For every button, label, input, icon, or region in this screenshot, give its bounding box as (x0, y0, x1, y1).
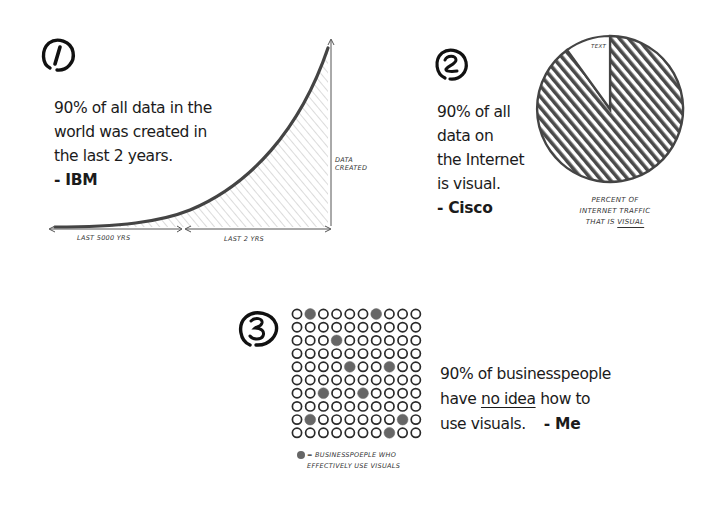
filled-dot (318, 388, 329, 399)
filled-dot (384, 427, 395, 438)
empty-dot (372, 402, 381, 411)
empty-dot (345, 389, 354, 398)
empty-dot (292, 336, 301, 345)
empty-dot (332, 402, 341, 411)
empty-dot (411, 402, 420, 411)
empty-dot (411, 323, 420, 332)
pie-caption-line: INTERNET TRAFFIC (572, 206, 658, 217)
empty-dot (332, 309, 341, 318)
empty-dot (411, 389, 420, 398)
empty-dot (411, 375, 420, 384)
empty-dot (332, 349, 341, 358)
empty-dot (332, 362, 341, 371)
empty-dot (385, 309, 394, 318)
empty-dot (358, 375, 367, 384)
filled-dot (331, 335, 342, 346)
empty-dot (319, 323, 328, 332)
empty-dot (385, 389, 394, 398)
empty-dot (398, 389, 407, 398)
empty-dot (332, 415, 341, 424)
empty-dot (292, 349, 301, 358)
empty-dot (385, 415, 394, 424)
empty-dot (332, 389, 341, 398)
empty-dot (292, 428, 301, 437)
empty-dot (306, 336, 315, 345)
empty-dot (319, 402, 328, 411)
empty-dot (398, 336, 407, 345)
empty-dot (292, 323, 301, 332)
empty-dot (372, 375, 381, 384)
filled-dot (397, 414, 408, 425)
fact-3-line: 90% of businesspeople (440, 362, 611, 387)
empty-dot (358, 309, 367, 318)
empty-dot (306, 362, 315, 371)
businesspeople-dot-grid (291, 308, 431, 448)
empty-dot (292, 362, 301, 371)
empty-dot (332, 375, 341, 384)
empty-dot (306, 389, 315, 398)
fact-3-emphasis: no idea (481, 390, 536, 408)
fact-3-pre: have (440, 390, 476, 408)
empty-dot (292, 389, 301, 398)
filled-dot (371, 309, 382, 320)
empty-dot (372, 428, 381, 437)
empty-dot (372, 349, 381, 358)
empty-dot (411, 336, 420, 345)
fact-3-last: use visuals. (440, 415, 526, 433)
empty-dot (319, 362, 328, 371)
empty-dot (332, 323, 341, 332)
fact-3-post: how to (540, 390, 590, 408)
empty-dot (358, 323, 367, 332)
pie-caption-line: THAT IS VISUAL (572, 217, 658, 228)
empty-dot (385, 402, 394, 411)
fact-3-line: have no idea how to (440, 387, 611, 412)
pie-caption-line: PERCENT OF (572, 195, 658, 206)
empty-dot (411, 428, 420, 437)
empty-dot (345, 428, 354, 437)
empty-dot (345, 349, 354, 358)
empty-dot (319, 375, 328, 384)
filled-dot (344, 361, 355, 372)
empty-dot (385, 375, 394, 384)
number-3-badge-icon (236, 309, 280, 349)
empty-dot (398, 323, 407, 332)
empty-dot (358, 362, 367, 371)
empty-dot (385, 349, 394, 358)
pie-caption-prefix: THAT IS (586, 218, 615, 226)
empty-dot (345, 402, 354, 411)
empty-dot (411, 349, 420, 358)
empty-dot (372, 323, 381, 332)
empty-dot (358, 349, 367, 358)
filled-dot (384, 361, 395, 372)
empty-dot (319, 336, 328, 345)
empty-dot (306, 375, 315, 384)
empty-dot (398, 349, 407, 358)
empty-dot (292, 415, 301, 424)
empty-dot (319, 428, 328, 437)
empty-dot (358, 336, 367, 345)
empty-dot (385, 336, 394, 345)
empty-dot (372, 336, 381, 345)
empty-dot (292, 375, 301, 384)
empty-dot (306, 428, 315, 437)
filled-dot-legend-icon (297, 451, 305, 459)
empty-dot (345, 309, 354, 318)
empty-dot (372, 362, 381, 371)
empty-dot (319, 415, 328, 424)
empty-dot (358, 415, 367, 424)
empty-dot (332, 428, 341, 437)
legend-line: EFFECTIVELY USE VISUALS (307, 461, 400, 472)
empty-dot (345, 375, 354, 384)
empty-dot (306, 323, 315, 332)
empty-dot (398, 375, 407, 384)
empty-dot (385, 323, 394, 332)
empty-dot (372, 415, 381, 424)
empty-dot (398, 362, 407, 371)
legend-text: = BUSINESSPOEPLE WHO EFFECTIVELY USE VIS… (307, 450, 400, 472)
empty-dot (345, 415, 354, 424)
fact-3-line: use visuals. - Me (440, 412, 611, 437)
empty-dot (411, 415, 420, 424)
filled-dot (305, 414, 316, 425)
empty-dot (292, 402, 301, 411)
empty-dot (398, 402, 407, 411)
